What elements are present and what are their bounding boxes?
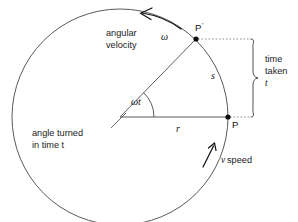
- point-p-label: P: [232, 119, 238, 130]
- angle-arc: [144, 93, 154, 117]
- speed-word-label: speed: [227, 155, 252, 165]
- angular-velocity-label-line1: angular: [106, 28, 137, 38]
- angular-velocity-label-line2: velocity: [106, 40, 137, 50]
- radius-label: r: [176, 123, 180, 134]
- point-p-prime-label-group: P ': [195, 22, 203, 33]
- angle-turned-label-line1: angle turned: [32, 128, 83, 138]
- angle-turned-leader-line: [111, 113, 126, 128]
- omega-symbol-label: ω: [161, 31, 168, 42]
- time-taken-label-line1: time: [265, 54, 282, 64]
- time-taken-label-line3: t: [265, 78, 268, 88]
- point-p-prime-marker: [193, 36, 198, 41]
- arc-length-label: s: [211, 70, 215, 81]
- angle-turned-label-line2: in time t: [32, 140, 65, 150]
- v-speed-arrow-shaft: [203, 146, 214, 167]
- v-symbol-label: v: [221, 155, 226, 165]
- omega-t-label: ωt: [131, 96, 141, 107]
- point-p-prime-tick: ': [202, 22, 203, 29]
- point-p-prime-label: P: [195, 22, 201, 33]
- time-taken-label-line2: taken: [265, 66, 287, 76]
- v-speed-label-group: v speed: [221, 155, 252, 165]
- diagram-canvas: angular velocity ω ωt r s P ' P time tak…: [0, 0, 298, 222]
- omega-arrow-shaft: [142, 13, 181, 29]
- time-taken-brace-icon: [251, 39, 258, 117]
- point-p-marker: [225, 114, 230, 119]
- circular-motion-diagram: angular velocity ω ωt r s P ' P time tak…: [0, 0, 298, 222]
